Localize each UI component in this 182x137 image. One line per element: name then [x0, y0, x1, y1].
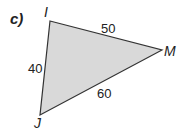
vertex-label-i: I	[44, 5, 48, 19]
part-label: c)	[10, 11, 23, 26]
side-label-jm: 60	[97, 87, 111, 100]
vertex-label-m: M	[164, 44, 176, 58]
side-label-im: 50	[101, 22, 115, 35]
vertex-label-j: J	[34, 116, 41, 130]
side-label-ij: 40	[28, 62, 42, 75]
